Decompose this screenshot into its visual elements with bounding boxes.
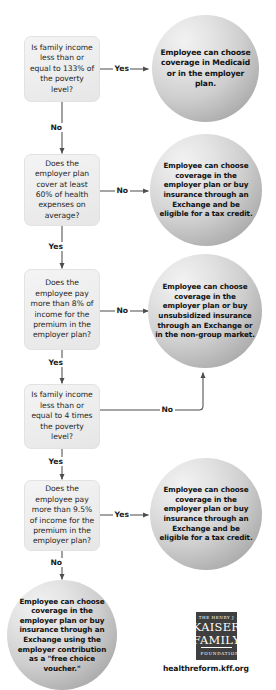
branch-label-yes-2: Yes bbox=[47, 242, 64, 251]
site-url-text[interactable]: healthreform.kff.org bbox=[163, 664, 249, 673]
decision-box-income-4-times[interactable]: Is family income less than or equal to 4… bbox=[24, 384, 100, 449]
decision-text: Does the employee pay more than 9.5% of … bbox=[29, 484, 95, 546]
branch-label-yes-1: Yes bbox=[113, 64, 130, 73]
branch-label-yes-3: Yes bbox=[47, 358, 64, 367]
outcome-circle-free-choice-voucher[interactable]: Employee can choose coverage in the empl… bbox=[7, 580, 117, 690]
outcome-circle-unsubsidized-exchange[interactable]: Employee can choose coverage in the empl… bbox=[148, 254, 262, 368]
branch-label-no-3: No bbox=[115, 306, 130, 315]
decision-text: Does the employer plan cover at least 60… bbox=[29, 159, 95, 221]
outcome-text: Employee can choose coverage in Medicaid… bbox=[152, 48, 259, 89]
outcome-circle-exchange-tax-credit-1[interactable]: Employee can choose coverage in the empl… bbox=[150, 134, 262, 246]
decision-box-plan-60-percent[interactable]: Does the employer plan cover at least 60… bbox=[24, 154, 100, 226]
branch-label-no-2: No bbox=[115, 186, 130, 195]
decision-text: Is family income less than or equal to 1… bbox=[29, 43, 95, 95]
logo-line-kaiser: KAISER bbox=[193, 621, 240, 633]
decision-text: Does the employee pay more than 8% of in… bbox=[29, 278, 95, 340]
outcome-circle-medicaid-or-employer[interactable]: Employee can choose coverage in Medicaid… bbox=[152, 15, 259, 122]
branch-label-yes-4: Yes bbox=[47, 457, 64, 466]
outcome-text: Employee can choose coverage in the empl… bbox=[150, 485, 262, 543]
kaiser-family-foundation-logo: THE HENRY J KAISER FAMILY FOUNDATION bbox=[196, 612, 237, 660]
branch-label-yes-5: Yes bbox=[113, 510, 130, 519]
logo-line-foundation: FOUNDATION bbox=[201, 647, 233, 657]
decision-box-premium-8-percent[interactable]: Does the employee pay more than 8% of in… bbox=[24, 269, 100, 350]
decision-text: Is family income less than or equal to 4… bbox=[29, 390, 95, 442]
branch-label-no-5: No bbox=[49, 558, 64, 567]
decision-box-premium-95-percent[interactable]: Does the employee pay more than 9.5% of … bbox=[24, 480, 100, 551]
branch-label-no-1: No bbox=[49, 123, 64, 132]
outcome-text: Employee can choose coverage in the empl… bbox=[7, 597, 117, 674]
logo-line-family: FAMILY bbox=[193, 634, 240, 646]
outcome-text: Employee can choose coverage in the empl… bbox=[150, 161, 262, 219]
decision-box-income-133[interactable]: Is family income less than or equal to 1… bbox=[24, 36, 100, 102]
outcome-text: Employee can choose coverage in the empl… bbox=[148, 282, 262, 340]
outcome-circle-exchange-tax-credit-2[interactable]: Employee can choose coverage in the empl… bbox=[150, 458, 262, 570]
branch-label-no-4: No bbox=[160, 405, 175, 414]
